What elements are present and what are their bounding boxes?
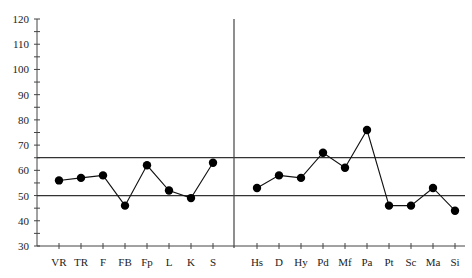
y-tick-label: 40 (18, 215, 30, 227)
data-point-Sc (407, 201, 415, 209)
profile-chart: 30405060708090100110120 VRTRFFBFpLKSHsDH… (0, 0, 472, 278)
y-tick-label: 70 (18, 139, 30, 151)
y-tick-label: 110 (13, 38, 30, 50)
x-tick-label: Sc (406, 256, 417, 268)
y-tick-label: 100 (13, 63, 30, 75)
data-point-Si (451, 206, 459, 214)
x-tick-label: TR (74, 256, 89, 268)
y-tick-label: 120 (13, 13, 30, 25)
x-tick-label: L (166, 256, 173, 268)
x-tick-label: Fp (141, 256, 153, 268)
data-point-S (209, 159, 217, 167)
data-series (55, 126, 459, 215)
y-tick-label: 50 (18, 190, 30, 202)
data-point-Pt (385, 201, 393, 209)
data-point-VR (55, 176, 63, 184)
data-point-L (165, 186, 173, 194)
x-tick-label: Si (450, 256, 459, 268)
data-point-Pd (319, 148, 327, 156)
data-point-D (275, 171, 283, 179)
y-tick-label: 60 (18, 164, 30, 176)
x-tick-label: Mf (338, 256, 352, 268)
data-point-Ma (429, 184, 437, 192)
x-tick-label: VR (51, 256, 67, 268)
x-tick-label: S (210, 256, 216, 268)
data-point-Fp (143, 161, 151, 169)
data-point-F (99, 171, 107, 179)
x-tick-label: Pt (384, 256, 393, 268)
x-tick-label: D (275, 256, 283, 268)
x-tick-label: Hy (294, 256, 308, 268)
data-point-K (187, 194, 195, 202)
x-tick-label: FB (118, 256, 131, 268)
x-axis: VRTRFFBFpLKSHsDHyPdMfPaPtScMaSi (37, 243, 465, 268)
y-axis: 30405060708090100110120 (13, 13, 41, 252)
x-tick-label: K (187, 256, 195, 268)
data-point-Hy (297, 174, 305, 182)
clinical-line (257, 130, 455, 211)
y-tick-label: 30 (18, 240, 30, 252)
x-tick-label: F (100, 256, 106, 268)
y-tick-label: 90 (18, 89, 30, 101)
data-point-Pa (363, 126, 371, 134)
x-tick-label: Pa (362, 256, 373, 268)
x-tick-label: Ma (426, 256, 441, 268)
data-point-TR (77, 174, 85, 182)
data-point-FB (121, 201, 129, 209)
x-tick-label: Pd (317, 256, 329, 268)
data-point-Mf (341, 164, 349, 172)
data-point-Hs (253, 184, 261, 192)
y-tick-label: 80 (18, 114, 30, 126)
x-tick-label: Hs (251, 256, 263, 268)
